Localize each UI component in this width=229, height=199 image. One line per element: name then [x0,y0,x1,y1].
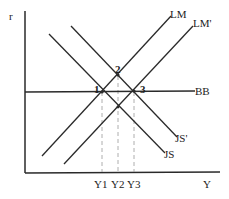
point-1-label: 1 [94,83,100,95]
point-3-label: 3 [140,83,146,95]
bb-curve [25,91,195,92]
point-1-marker [100,90,103,93]
point-2-label: 2 [115,63,121,75]
y-axis-label: r [9,10,13,22]
lm-curve [42,16,171,156]
js-prime-curve [71,26,177,137]
lower-intersection-marker [117,106,120,109]
tick-y2: Y2 [111,178,124,190]
js-curve [49,34,165,153]
tick-y3: Y3 [127,178,141,190]
lm-prime-label: LM' [193,17,212,29]
js-prime-label: JS' [175,132,187,144]
x-axis [25,172,220,173]
x-axis-label: Y [203,178,211,190]
lm-label: LM [170,8,187,20]
tick-y1: Y1 [94,178,107,190]
bb-label: BB [195,85,210,97]
js-label: JS [164,148,174,160]
lm-prime-curve [64,26,193,164]
is-lm-bb-diagram: r Y BB LM LM' JS JS' 1 2 3 Y1 Y2 Y3 [0,0,229,199]
point-3-marker [132,89,135,92]
